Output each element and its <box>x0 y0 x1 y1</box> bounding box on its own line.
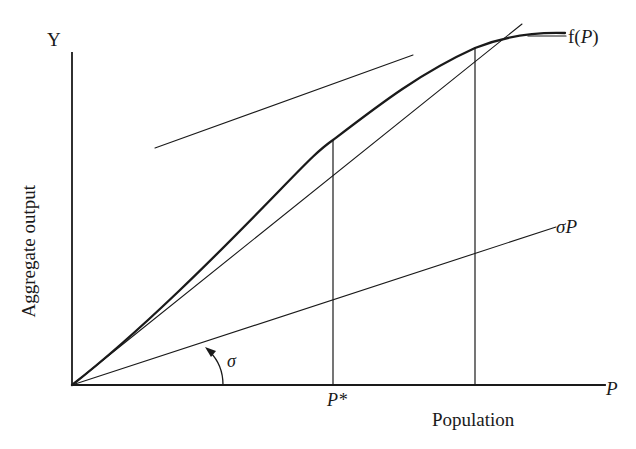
fp-label-prefix: f( <box>568 26 581 47</box>
figure-canvas: Y f(P) σP P P* σ Population Aggregate ou… <box>0 0 636 449</box>
sigma-p-line-label: σP <box>556 217 577 236</box>
fp-label-suffix: ) <box>592 26 598 47</box>
sigma-angle-label: σ <box>227 352 236 370</box>
sigma-angle-arrowhead <box>205 347 216 357</box>
x-axis-tip-label: P <box>606 379 618 398</box>
tangent-line-at-p-star <box>155 55 413 148</box>
tangent-ray-from-origin <box>72 24 522 385</box>
y-axis-tip-label: Y <box>47 30 61 49</box>
fp-curve <box>72 33 565 385</box>
sigma-p-label-p: P <box>565 216 577 237</box>
fp-label-variable: P <box>581 26 593 47</box>
fp-curve-label: f(P) <box>568 27 599 46</box>
p-star-label: P* <box>327 391 347 409</box>
sigma-p-line <box>72 227 556 385</box>
x-axis-title: Population <box>432 410 514 429</box>
sigma-p-label-sigma: σ <box>556 216 565 237</box>
chart-plot-area <box>0 0 636 449</box>
sigma-angle-arc <box>210 352 223 385</box>
y-axis-title: Aggregate output <box>19 198 38 318</box>
